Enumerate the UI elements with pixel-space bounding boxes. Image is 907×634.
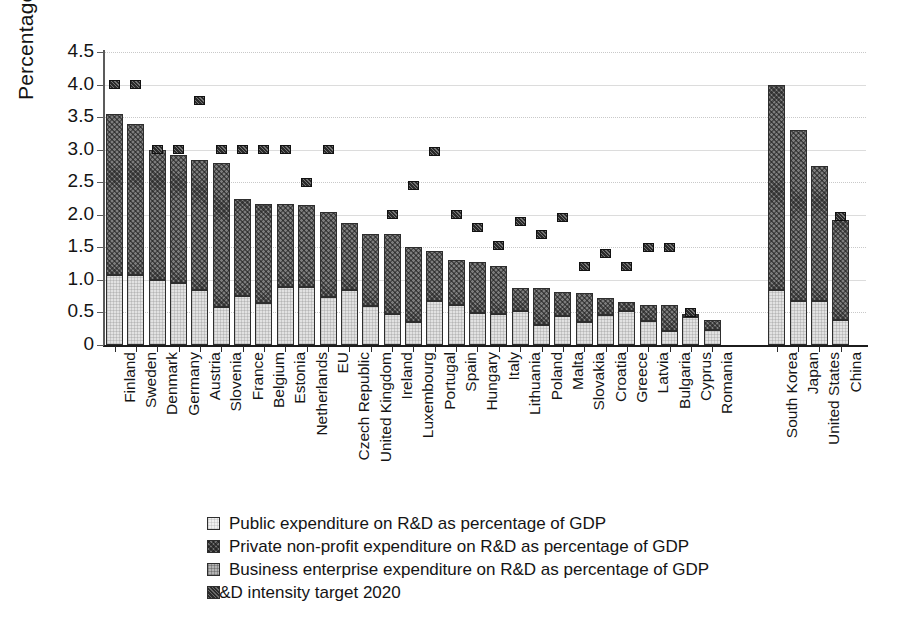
legend-item-nonprofit[interactable]: Private non-profit expenditure on R&D as…: [207, 535, 709, 558]
bar-china[interactable]: [832, 220, 849, 345]
bar-portugal[interactable]: [426, 251, 443, 345]
target-marker-sweden: [130, 80, 141, 89]
target-marker-italy: [493, 241, 504, 250]
bar-segment-public: [384, 314, 401, 345]
x-axis-label-luxembourg: Luxembourg: [419, 352, 437, 438]
target-marker-ireland: [387, 210, 398, 219]
bar-segment-public: [320, 297, 337, 345]
bar-croatia[interactable]: [597, 298, 614, 345]
target-marker-malta: [557, 213, 568, 222]
y-axis-tick: [97, 117, 104, 118]
legend-swatch-target-icon: [207, 586, 220, 599]
legend-label: Private non-profit expenditure on R&D as…: [229, 537, 689, 557]
bar-segment-public: [704, 330, 721, 345]
bar-finland[interactable]: [106, 114, 123, 345]
x-axis-label-poland: Poland: [548, 352, 566, 400]
legend-label: Business enterprise expenditure on R&D a…: [229, 560, 709, 580]
bar-france[interactable]: [234, 199, 251, 346]
x-axis-label-sweden: Sweden: [142, 352, 160, 408]
bar-united-kingdom[interactable]: [362, 234, 379, 345]
bar-romania[interactable]: [704, 320, 721, 345]
bar-segment-nonprofit: [554, 292, 571, 316]
target-marker-poland: [536, 230, 547, 239]
bar-denmark[interactable]: [149, 150, 166, 345]
bar-estonia[interactable]: [277, 204, 294, 345]
bar-malta[interactable]: [554, 292, 571, 345]
x-axis-label-estonia: Estonia: [291, 352, 309, 404]
bar-italy[interactable]: [490, 266, 507, 345]
bar-germany[interactable]: [170, 155, 187, 345]
legend-item-public[interactable]: Public expenditure on R&D as percentage …: [207, 512, 709, 535]
bar-segment-nonprofit: [618, 302, 635, 311]
x-axis-label-latvia: Latvia: [654, 352, 672, 393]
target-marker-eu: [323, 145, 334, 154]
y-axis-tick-label: 2.0: [50, 203, 94, 225]
y-axis-tick: [97, 280, 104, 281]
bar-united-states[interactable]: [811, 166, 828, 345]
bar-czech-republic[interactable]: [341, 223, 358, 345]
bar-segment-public: [149, 280, 166, 345]
bar-segment-nonprofit: [597, 298, 614, 315]
plot-area: [105, 52, 866, 345]
bar-austria[interactable]: [191, 160, 208, 345]
y-axis-tick: [97, 85, 104, 86]
bar-segment-public: [448, 305, 465, 345]
bar-segment-public: [768, 290, 785, 345]
bar-segment-nonprofit: [341, 223, 358, 290]
y-axis-tick-label: 3.5: [50, 105, 94, 127]
bar-south-korea[interactable]: [768, 85, 785, 345]
bar-sweden[interactable]: [127, 124, 144, 345]
bar-lithuania[interactable]: [512, 288, 529, 345]
legend-label: R&D intensity target 2020: [207, 583, 401, 603]
x-axis-label-slovenia: Slovenia: [227, 352, 245, 411]
target-marker-finland: [109, 80, 120, 89]
y-axis-tick-label: 2.5: [50, 170, 94, 192]
legend-item-target[interactable]: R&D intensity target 2020: [207, 581, 709, 604]
x-axis-label-south-korea: South Korea: [783, 352, 801, 438]
bar-bulgaria[interactable]: [661, 305, 678, 345]
target-marker-belgium: [258, 145, 269, 154]
x-axis-label-united-kingdom: United Kingdom: [377, 352, 395, 462]
bar-segment-public: [811, 301, 828, 345]
bar-luxembourg[interactable]: [405, 247, 422, 345]
bar-hungary[interactable]: [469, 262, 486, 345]
target-marker-denmark: [152, 145, 163, 154]
x-axis-label-japan: Japan: [804, 352, 822, 394]
bar-slovenia[interactable]: [213, 163, 230, 345]
bar-japan[interactable]: [790, 129, 807, 345]
bar-latvia[interactable]: [640, 305, 657, 345]
y-axis-tick: [97, 312, 104, 313]
y-axis-tick-label: 4.5: [50, 40, 94, 62]
bar-poland[interactable]: [533, 288, 550, 345]
target-marker-luxembourg: [408, 181, 419, 190]
bar-cyprus[interactable]: [682, 314, 699, 345]
x-axis-label-ireland: Ireland: [398, 352, 416, 399]
bar-eu[interactable]: [320, 212, 337, 345]
y-axis-tick-label: 0.5: [50, 300, 94, 322]
bar-segment-nonprofit: [576, 293, 593, 322]
x-axis-tick: [777, 346, 778, 352]
bar-spain[interactable]: [448, 260, 465, 345]
legend-item-business[interactable]: Business enterprise expenditure on R&D a…: [207, 558, 709, 581]
bar-segment-nonprofit: [191, 160, 208, 290]
bar-segment-nonprofit: [512, 288, 529, 311]
y-axis-tick-label: 1.5: [50, 235, 94, 257]
bar-ireland[interactable]: [384, 234, 401, 345]
bar-segment-nonprofit: [490, 266, 507, 314]
bar-segment-public: [106, 275, 123, 345]
x-axis-label-austria: Austria: [206, 352, 224, 400]
bar-netherlands[interactable]: [298, 205, 315, 345]
bar-segment-nonprofit: [384, 234, 401, 314]
bar-belgium[interactable]: [255, 204, 272, 345]
bar-segment-public: [426, 301, 443, 345]
x-axis-label-greece: Greece: [633, 352, 651, 403]
bar-segment-public: [597, 315, 614, 345]
bar-greece[interactable]: [618, 302, 635, 345]
x-axis-label-spain: Spain: [462, 352, 480, 392]
bar-segment-public: [790, 301, 807, 345]
bar-slovakia[interactable]: [576, 293, 593, 345]
bar-segment-public: [127, 275, 144, 345]
target-marker-cyprus: [685, 308, 696, 317]
bar-segment-public: [682, 317, 699, 345]
bar-segment-public: [234, 296, 251, 345]
